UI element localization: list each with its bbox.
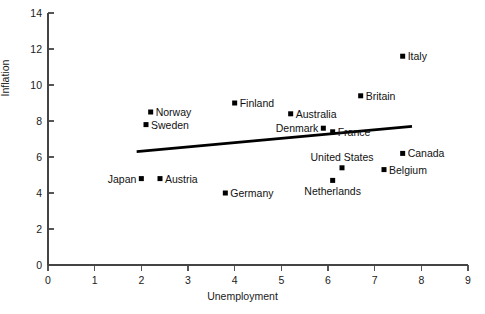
data-point-marker [340, 165, 345, 170]
data-point-marker [144, 122, 149, 127]
x-tick-label: 2 [138, 275, 144, 286]
x-tick-label: 3 [185, 275, 191, 286]
data-point-marker [330, 178, 335, 183]
data-point-marker [139, 176, 144, 181]
data-point-marker [288, 111, 293, 116]
data-point-label: Finland [240, 98, 274, 109]
y-tick-label: 12 [24, 44, 42, 55]
data-point-marker [400, 151, 405, 156]
y-tick-label: 14 [24, 8, 42, 19]
y-tick-label: 10 [24, 80, 42, 91]
x-tick-label: 0 [45, 275, 51, 286]
data-point-label: Italy [408, 51, 427, 62]
x-tick-label: 7 [372, 275, 378, 286]
data-point-label: Canada [408, 148, 445, 159]
data-point-label: Germany [230, 188, 273, 199]
x-tick-label: 6 [325, 275, 331, 286]
data-point-label: United States [310, 151, 373, 162]
data-point-label: Japan [108, 173, 137, 184]
x-tick-label: 4 [232, 275, 238, 286]
y-tick-label: 4 [24, 188, 42, 199]
y-axis-title: Inflation [0, 18, 11, 138]
y-tick-label: 0 [24, 260, 42, 271]
x-axis-title: Unemployment [0, 291, 485, 302]
y-tick-label: 2 [24, 224, 42, 235]
y-tick-label: 6 [24, 152, 42, 163]
data-point-marker [321, 126, 326, 131]
data-point-label: Austria [165, 173, 198, 184]
data-point-label: France [338, 127, 371, 138]
data-point-label: Australia [296, 109, 337, 120]
data-point-marker [382, 167, 387, 172]
y-tick-label: 8 [24, 116, 42, 127]
x-tick-label: 9 [465, 275, 471, 286]
data-point-marker [158, 176, 163, 181]
data-point-label: Sweden [151, 119, 189, 130]
axis-ticks [48, 13, 468, 271]
x-tick-label: 8 [418, 275, 424, 286]
data-point-marker [223, 191, 228, 196]
x-tick-label: 5 [278, 275, 284, 286]
data-point-marker [400, 54, 405, 59]
data-point-marker [330, 129, 335, 134]
data-point-label: Norway [156, 107, 192, 118]
data-point-label: Britain [366, 91, 396, 102]
data-point-label: Belgium [389, 164, 427, 175]
data-point-marker [148, 110, 153, 115]
data-point-label: Denmark [276, 123, 319, 134]
data-point-marker [232, 101, 237, 106]
scatter-plot-figure: 0123456789 02468101214 ItalyBritainFinla… [0, 0, 485, 314]
data-point-label: Netherlands [304, 186, 361, 197]
x-tick-label: 1 [92, 275, 98, 286]
data-point-marker [358, 93, 363, 98]
